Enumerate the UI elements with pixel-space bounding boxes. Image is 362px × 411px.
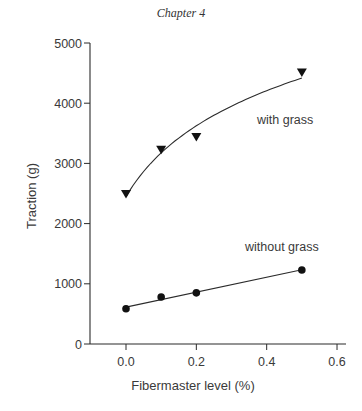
with-grass-fit-curve — [126, 78, 302, 197]
data-markers — [121, 68, 307, 312]
with-grass-marker — [191, 133, 201, 142]
without-grass-label: without grass — [244, 240, 319, 254]
x-axis-title: Fibermaster level (%) — [131, 378, 255, 393]
x-tick-label: 0.2 — [188, 355, 205, 369]
without-grass-marker — [122, 305, 130, 313]
x-tick-label: 0.4 — [258, 355, 275, 369]
traction-chart: 0100020003000400050000.00.20.40.6Fiberma… — [0, 0, 362, 411]
y-tick-label: 1000 — [54, 277, 82, 291]
x-tick-label: 0.6 — [328, 355, 345, 369]
without-grass-marker — [298, 266, 306, 274]
y-axis-title: Traction (g) — [24, 163, 39, 229]
without-grass-fit-line — [126, 270, 302, 307]
with-grass-marker — [121, 190, 131, 199]
with-grass-marker — [297, 68, 307, 77]
with-grass-label: with grass — [256, 113, 313, 127]
y-tick-label: 2000 — [54, 217, 82, 231]
y-tick-label: 3000 — [54, 157, 82, 171]
y-tick-label: 0 — [75, 338, 82, 352]
x-tick-label: 0.0 — [117, 355, 134, 369]
chart-axes — [84, 43, 346, 350]
without-grass-marker — [157, 293, 165, 301]
chart-labels: 0100020003000400050000.00.20.40.6Fiberma… — [24, 37, 346, 394]
y-tick-label: 5000 — [54, 37, 82, 51]
without-grass-marker — [193, 289, 201, 297]
y-tick-label: 4000 — [54, 97, 82, 111]
